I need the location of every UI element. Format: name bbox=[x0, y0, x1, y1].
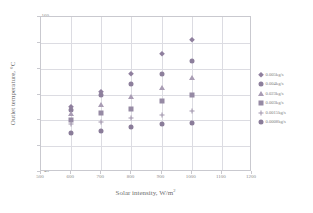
legend-label: 0.003kg/s bbox=[266, 100, 284, 106]
legend-label: 0.0008kg/s bbox=[266, 119, 286, 125]
gridline-vertical bbox=[131, 17, 132, 170]
x-tick-label: 800 bbox=[115, 174, 145, 180]
legend-label: 0.005kg/s bbox=[266, 72, 284, 78]
legend-label: 0.023kg/s bbox=[266, 91, 284, 97]
legend-item[interactable]: 0.0008kg/s bbox=[257, 118, 313, 127]
legend: 0.005kg/s0.004kg/s0.023kg/s0.003kg/s0.00… bbox=[257, 70, 313, 127]
legend-marker-plus-icon bbox=[257, 109, 264, 116]
gridline-vertical bbox=[101, 17, 102, 170]
gridline-horizontal bbox=[41, 120, 250, 121]
gridline-horizontal bbox=[41, 146, 250, 147]
marker-diamond bbox=[257, 71, 263, 77]
legend-marker-circle-icon bbox=[257, 81, 264, 88]
gridline-horizontal bbox=[41, 43, 250, 44]
x-tick-label: 500 bbox=[25, 174, 55, 180]
plot-area bbox=[40, 16, 251, 171]
legend-marker-triangle-icon bbox=[257, 90, 264, 97]
marker-circle bbox=[258, 82, 263, 87]
x-tick-mark bbox=[100, 171, 101, 174]
legend-item[interactable]: 0.004kg/s bbox=[257, 80, 313, 89]
legend-marker-circle-icon bbox=[257, 119, 264, 126]
legend-item[interactable]: 0.005kg/s bbox=[257, 70, 313, 79]
x-tick-mark bbox=[70, 171, 71, 174]
legend-item[interactable]: 0.023kg/s bbox=[257, 89, 313, 98]
x-tick-mark bbox=[40, 171, 41, 174]
gridline-horizontal bbox=[41, 95, 250, 96]
x-tick-label: 1100 bbox=[206, 174, 236, 180]
x-tick-label: 700 bbox=[85, 174, 115, 180]
legend-label: 0.0015kg/s bbox=[266, 110, 286, 116]
scatter-chart: Outlet temperature, °C 40608010012014016… bbox=[0, 0, 313, 213]
marker-triangle bbox=[258, 91, 264, 96]
legend-item[interactable]: 0.003kg/s bbox=[257, 99, 313, 108]
marker-plus bbox=[258, 110, 263, 115]
y-axis-title: Outlet temperature, °C bbox=[9, 34, 18, 154]
x-tick-mark bbox=[251, 171, 252, 174]
x-tick-label: 900 bbox=[146, 174, 176, 180]
gridline-horizontal bbox=[41, 69, 250, 70]
x-tick-mark bbox=[221, 171, 222, 174]
gridline-vertical bbox=[222, 17, 223, 170]
legend-label: 0.004kg/s bbox=[266, 81, 284, 87]
marker-square bbox=[258, 101, 263, 106]
legend-item[interactable]: 0.0015kg/s bbox=[257, 108, 313, 117]
x-tick-label: 1200 bbox=[236, 174, 266, 180]
gridline-vertical bbox=[192, 17, 193, 170]
x-tick-label: 1000 bbox=[176, 174, 206, 180]
x-tick-mark bbox=[161, 171, 162, 174]
marker-circle bbox=[258, 120, 263, 125]
x-tick-mark bbox=[191, 171, 192, 174]
x-axis-title: Solar intensity, W/m2 bbox=[40, 186, 251, 198]
legend-marker-diamond-icon bbox=[257, 71, 264, 78]
gridline-vertical bbox=[162, 17, 163, 170]
x-tick-mark bbox=[130, 171, 131, 174]
legend-marker-square-icon bbox=[257, 100, 264, 107]
x-tick-label: 600 bbox=[55, 174, 85, 180]
gridline-vertical bbox=[71, 17, 72, 170]
